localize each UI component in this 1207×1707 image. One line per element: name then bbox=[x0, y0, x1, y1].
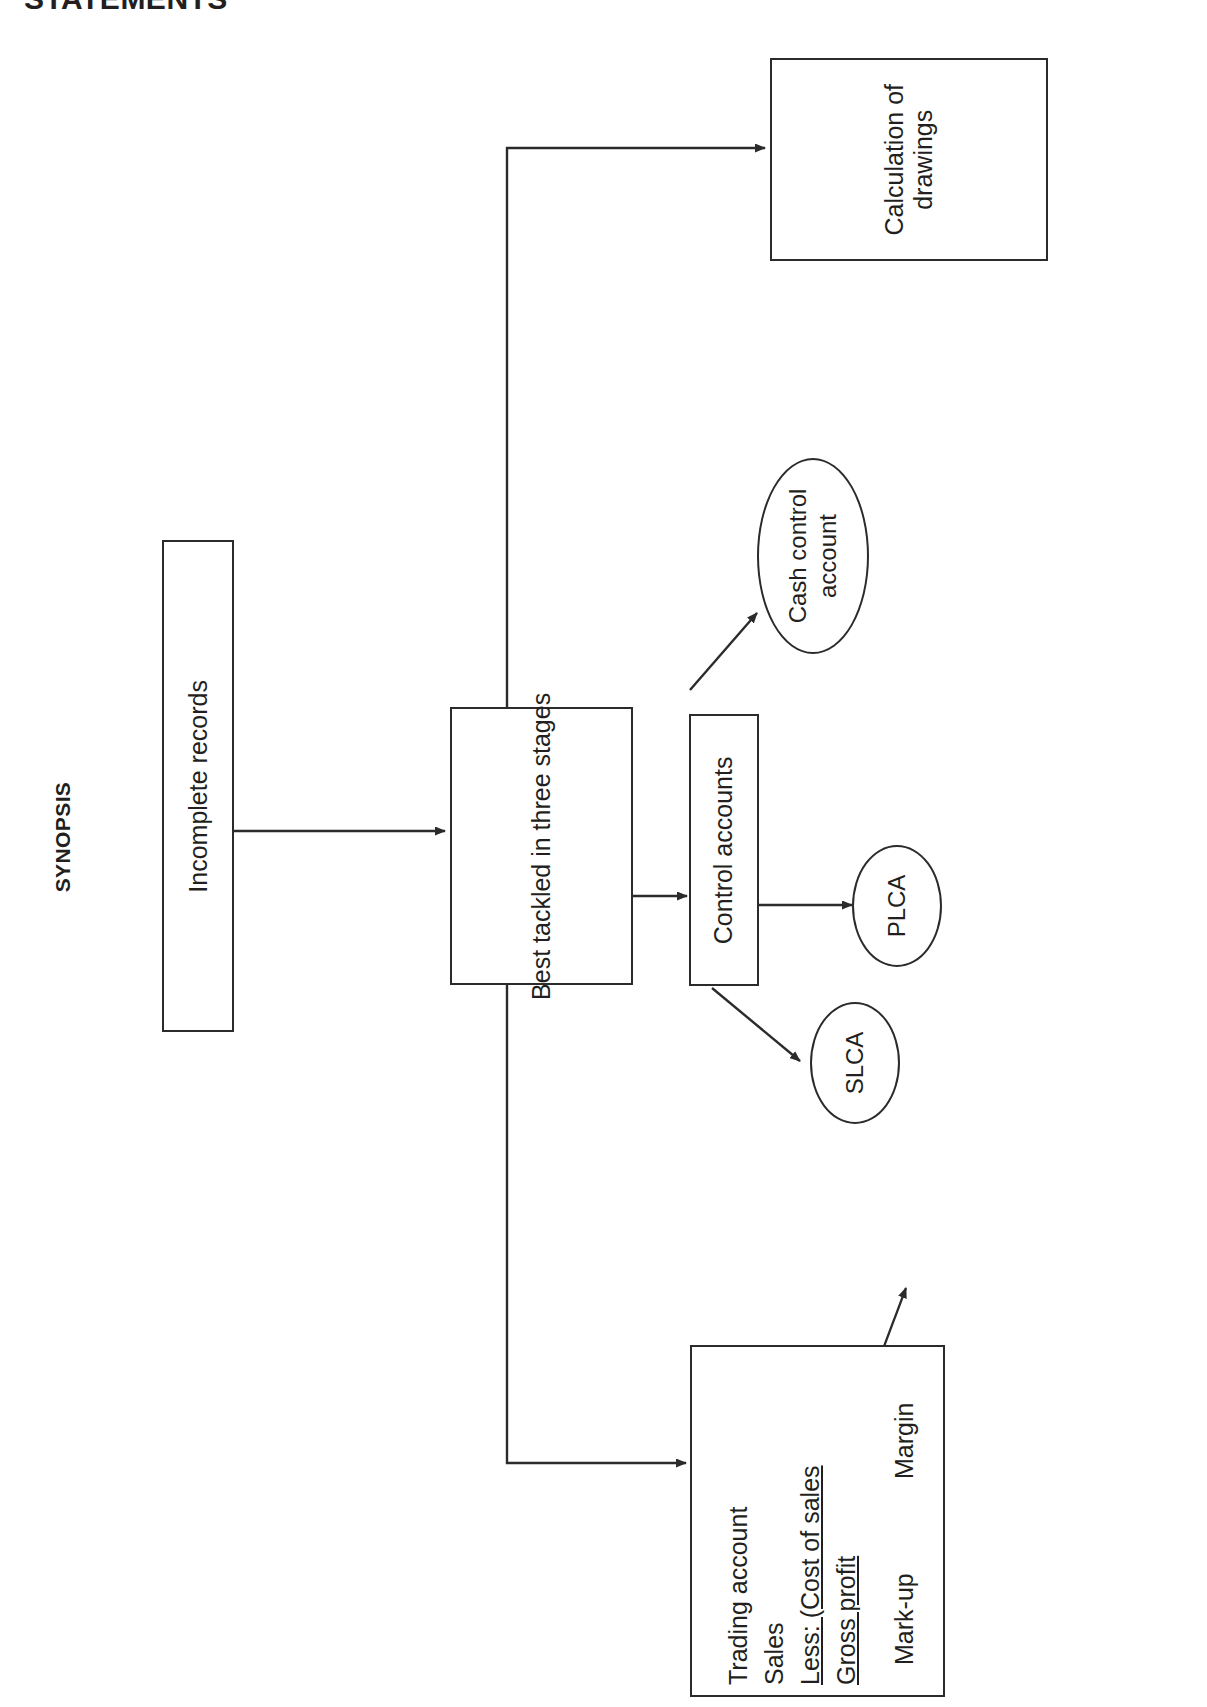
branch-label-margin: Margin bbox=[892, 1403, 917, 1479]
trading-account-branches: Mark-up Margin bbox=[842, 1347, 947, 1687]
page-running-heading-text: STATEMENTS bbox=[0, 0, 420, 24]
node-cash-control-account-labelwrap: Cash control account bbox=[759, 460, 867, 652]
node-control-accounts[interactable]: Control accounts bbox=[689, 714, 759, 986]
edge-control-to-cash bbox=[690, 613, 757, 690]
section-label-synopsis-text: SYNOPSIS bbox=[48, 782, 78, 893]
node-best-tackled-in-three-stages[interactable]: Best tackled in three stages bbox=[450, 707, 633, 985]
node-plca-labelwrap: PLCA bbox=[854, 847, 940, 965]
trading-account-line-2: Sales bbox=[762, 1622, 787, 1685]
node-incomplete-records-label: Incomplete records bbox=[184, 680, 213, 893]
node-calculation-of-drawings-labelwrap: Calculation of drawings bbox=[772, 60, 1046, 259]
node-calculation-of-drawings-line2: drawings bbox=[909, 84, 938, 235]
node-slca[interactable]: SLCA bbox=[810, 1002, 900, 1124]
node-control-accounts-labelwrap: Control accounts bbox=[691, 716, 757, 984]
node-cash-control-account-line1: Cash control bbox=[783, 489, 813, 624]
node-slca-label: SLCA bbox=[840, 1032, 870, 1095]
node-incomplete-records-labelwrap: Incomplete records bbox=[164, 542, 232, 1030]
node-cash-control-account[interactable]: Cash control account bbox=[757, 458, 869, 654]
trading-account-line-1: Trading account bbox=[726, 1507, 751, 1685]
node-calculation-of-drawings-label: Calculation of drawings bbox=[880, 84, 938, 235]
page-running-heading: STATEMENTS bbox=[0, 0, 420, 24]
section-label-synopsis: SYNOPSIS bbox=[0, 822, 158, 852]
edge-control-to-slca bbox=[712, 988, 800, 1061]
node-incomplete-records[interactable]: Incomplete records bbox=[162, 540, 234, 1032]
node-cash-control-account-line2: account bbox=[813, 489, 843, 624]
node-best-tackled-label: Best tackled in three stages bbox=[527, 692, 556, 999]
node-control-accounts-label: Control accounts bbox=[710, 756, 739, 944]
edge-best-to-trading bbox=[507, 985, 686, 1463]
node-trading-account[interactable]: Trading account Sales Less: (Cost of sal… bbox=[690, 1345, 945, 1697]
node-calculation-of-drawings[interactable]: Calculation of drawings bbox=[770, 58, 1048, 261]
node-calculation-of-drawings-line1: Calculation of bbox=[880, 84, 909, 235]
node-plca[interactable]: PLCA bbox=[852, 845, 942, 967]
page-canvas: STATEMENTS SYNOPSIS bbox=[0, 0, 1207, 1707]
node-cash-control-account-label: Cash control account bbox=[783, 489, 843, 624]
edge-best-to-drawings bbox=[507, 148, 765, 707]
trading-account-line-3: Less: (Cost of sales bbox=[798, 1465, 823, 1685]
node-best-tackled-labelwrap: Best tackled in three stages bbox=[452, 709, 631, 983]
node-plca-label: PLCA bbox=[882, 875, 912, 938]
branch-label-markup: Mark-up bbox=[892, 1573, 917, 1665]
trading-account-lines: Trading account Sales Less: (Cost of sal… bbox=[704, 1355, 854, 1691]
node-slca-labelwrap: SLCA bbox=[812, 1004, 898, 1122]
